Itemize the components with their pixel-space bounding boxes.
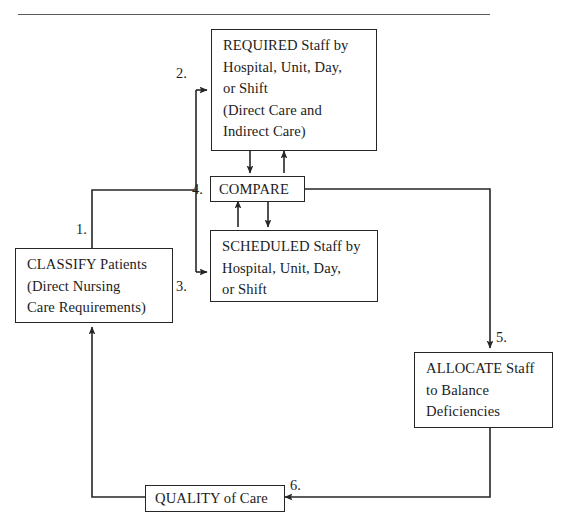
required-line-4: (Direct Care and xyxy=(223,100,367,122)
required-line-1: REQUIRED Staff by xyxy=(223,35,367,57)
classify-line-1: CLASSIFY Patients xyxy=(27,254,163,276)
scheduled-line-3: or Shift xyxy=(222,279,368,301)
step-label-6: 6. xyxy=(290,478,301,493)
wire-allocate-to-quality xyxy=(285,428,490,497)
compare-box[interactable]: COMPARE xyxy=(210,176,305,202)
top-divider-rule xyxy=(18,14,490,15)
step-label-4: 4. xyxy=(192,182,203,197)
wire-quality-to-classify xyxy=(92,327,145,497)
required-staff-box[interactable]: REQUIRED Staff by Hospital, Unit, Day, o… xyxy=(211,29,377,151)
required-line-3: or Shift xyxy=(223,78,367,100)
allocate-line-3: Deficiencies xyxy=(426,401,543,423)
step-label-2: 2. xyxy=(176,66,187,81)
step-label-1: 1. xyxy=(76,222,87,237)
allocate-line-1: ALLOCATE Staff xyxy=(426,358,543,380)
classify-line-3: Care Requirements) xyxy=(27,297,163,319)
classify-patients-box[interactable]: CLASSIFY Patients (Direct Nursing Care R… xyxy=(15,248,173,323)
scheduled-line-1: SCHEDULED Staff by xyxy=(222,236,368,258)
wire-classify-to-spine xyxy=(92,190,196,248)
diagram-canvas: REQUIRED Staff by Hospital, Unit, Day, o… xyxy=(0,0,567,532)
scheduled-staff-box[interactable]: SCHEDULED Staff by Hospital, Unit, Day, … xyxy=(210,230,378,302)
step-label-5: 5. xyxy=(496,330,507,345)
allocate-staff-box[interactable]: ALLOCATE Staff to Balance Deficiencies xyxy=(414,352,553,428)
required-line-2: Hospital, Unit, Day, xyxy=(223,57,367,79)
classify-line-2: (Direct Nursing xyxy=(27,276,163,298)
quality-of-care-box[interactable]: QUALITY of Care xyxy=(145,485,285,512)
allocate-line-2: to Balance xyxy=(426,380,543,402)
step-label-3: 3. xyxy=(176,279,187,294)
scheduled-line-2: Hospital, Unit, Day, xyxy=(222,258,368,280)
compare-label: COMPARE xyxy=(219,179,295,201)
quality-label: QUALITY of Care xyxy=(155,488,275,510)
required-line-5: Indirect Care) xyxy=(223,121,367,143)
